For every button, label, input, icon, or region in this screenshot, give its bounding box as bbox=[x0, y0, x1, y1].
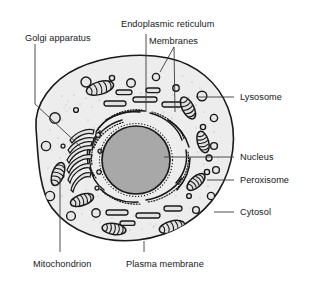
lysosome-vesicle bbox=[197, 91, 207, 101]
label-membranes: Membranes bbox=[149, 36, 198, 46]
vesicle bbox=[67, 212, 76, 221]
cell-diagram-canvas: Endoplasmic reticulum Membranes Golgi ap… bbox=[0, 0, 311, 286]
vesicle bbox=[211, 143, 218, 150]
vesicle bbox=[193, 207, 200, 214]
label-cytosol: Cytosol bbox=[240, 207, 271, 217]
vesicle bbox=[206, 155, 212, 161]
vesicle bbox=[207, 192, 214, 199]
vesicle bbox=[74, 108, 79, 113]
vesicle bbox=[173, 85, 179, 91]
cell-body bbox=[36, 55, 234, 241]
vesicle bbox=[127, 79, 136, 88]
vesicle bbox=[109, 75, 114, 80]
peroxisome bbox=[204, 169, 209, 174]
vesicle bbox=[200, 124, 205, 129]
vesicle bbox=[81, 77, 91, 87]
vesicle bbox=[152, 73, 159, 80]
vesicle bbox=[213, 167, 220, 174]
vesicle bbox=[41, 141, 50, 150]
label-peroxisome: Peroxisome bbox=[240, 175, 289, 185]
label-lysosome: Lysosome bbox=[240, 92, 282, 102]
label-mitochondrion: Mitochondrion bbox=[33, 259, 91, 269]
vesicle bbox=[187, 194, 192, 199]
vesicle bbox=[50, 113, 60, 123]
vesicle bbox=[210, 114, 217, 121]
label-endoplasmic-reticulum: Endoplasmic reticulum bbox=[121, 19, 214, 29]
vesicle bbox=[92, 209, 100, 217]
label-golgi-apparatus: Golgi apparatus bbox=[25, 33, 91, 43]
label-plasma-membrane: Plasma membrane bbox=[126, 259, 204, 269]
nucleus-body bbox=[102, 126, 170, 194]
label-nucleus: Nucleus bbox=[240, 152, 274, 162]
